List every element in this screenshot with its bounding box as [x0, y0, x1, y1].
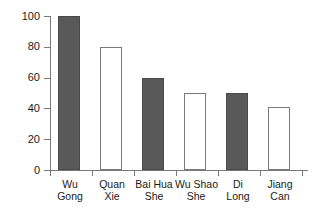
x-axis-tick	[302, 171, 303, 176]
x-axis-category-label-wu-gong: Wu Gong	[49, 178, 91, 202]
category-label-line2: Gong	[49, 190, 91, 202]
category-label-line2: She	[133, 190, 175, 202]
category-label-line1: Wu Shao	[175, 178, 217, 190]
x-axis-category-label-jiang-can: Jiang Can	[259, 178, 301, 202]
y-axis-tick-label: 80	[0, 41, 40, 52]
y-axis-tick-label: 40	[0, 103, 40, 114]
x-axis-tick	[176, 171, 177, 176]
category-label-line1: Wu	[49, 178, 91, 190]
x-axis-category-label-wu-shao-she: Wu Shao She	[175, 178, 217, 202]
x-axis-tick	[50, 171, 51, 176]
x-axis-category-label-quan-xie: Quan Xie	[91, 178, 133, 202]
y-axis-tick-label: 0	[0, 165, 40, 176]
x-axis-category-label-di-long: Di Long	[217, 178, 259, 202]
category-label-line2: Can	[259, 190, 301, 202]
category-label-line2: Xie	[91, 190, 133, 202]
y-axis-tick-label: 100	[0, 11, 40, 22]
bar-quan-xie[interactable]	[100, 47, 122, 170]
x-axis-category-label-bai-hua-she: Bai Hua She	[133, 178, 175, 202]
category-label-line2: She	[175, 190, 217, 202]
x-axis-tick	[134, 171, 135, 176]
bar-wu-shao-she[interactable]	[184, 93, 206, 170]
x-axis-tick	[92, 171, 93, 176]
y-axis-tick-label: 60	[0, 72, 40, 83]
x-axis-line	[50, 170, 308, 171]
y-axis-tick-label: 20	[0, 134, 40, 145]
bar-chart: 100 80 60 40 20 0 Wu Gong Quan Xie Bai H…	[0, 0, 314, 210]
bar-jiang-can[interactable]	[268, 107, 290, 170]
category-label-line1: Di	[217, 178, 259, 190]
category-label-line1: Jiang	[259, 178, 301, 190]
category-label-line1: Bai Hua	[133, 178, 175, 190]
bar-bai-hua-she[interactable]	[142, 78, 164, 170]
bar-di-long[interactable]	[226, 93, 248, 170]
x-axis-tick	[218, 171, 219, 176]
bar-wu-gong[interactable]	[58, 16, 80, 170]
category-label-line2: Long	[217, 190, 259, 202]
x-axis-tick	[260, 171, 261, 176]
y-axis-line	[50, 16, 51, 170]
category-label-line1: Quan	[91, 178, 133, 190]
